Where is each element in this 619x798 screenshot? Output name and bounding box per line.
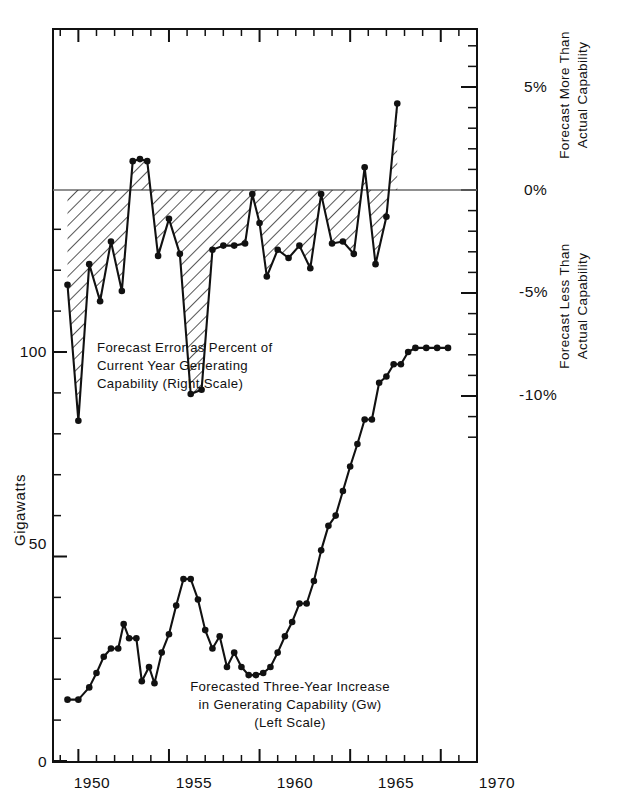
increase-annotation-line3: (Left Scale) bbox=[254, 715, 326, 730]
right-tick-label-5pct: 5% bbox=[524, 78, 547, 95]
left-axis-title: Gigawatts bbox=[11, 474, 28, 546]
left-tick-label-50: 50 bbox=[29, 535, 47, 552]
right-axis-title-less-line1: Forecast Less Than bbox=[557, 243, 572, 368]
error-annotation-line2: Current Year Generating bbox=[97, 358, 248, 373]
right-axis-title-more-line2: Actual Capability bbox=[575, 42, 590, 149]
increase-annotation-line2: in Generating Capability (Gw) bbox=[198, 697, 381, 712]
x-tick-label-1965: 1965 bbox=[378, 774, 414, 791]
x-tick-label-1950: 1950 bbox=[74, 774, 110, 791]
left-tick-label-100: 100 bbox=[20, 343, 47, 360]
right-tick-label-minus10pct: -10% bbox=[519, 386, 557, 403]
right-tick-label-0pct: 0% bbox=[524, 181, 547, 198]
increase-annotation-line1: Forecasted Three-Year Increase bbox=[190, 679, 390, 694]
chart-container: 100 50 0 Gigawatts 1950 1955 1960 1965 1… bbox=[0, 0, 619, 798]
forecast-error-and-capability-chart: 100 50 0 Gigawatts 1950 1955 1960 1965 1… bbox=[0, 0, 619, 798]
right-tick-label-minus5pct: -5% bbox=[519, 283, 548, 300]
error-annotation-line1: Forecast Error as Percent of bbox=[97, 340, 272, 355]
left-tick-label-0: 0 bbox=[38, 753, 47, 770]
x-tick-label-1970: 1970 bbox=[479, 774, 515, 791]
x-tick-label-1955: 1955 bbox=[176, 774, 212, 791]
x-tick-label-1960: 1960 bbox=[277, 774, 313, 791]
right-axis-title-less-line2: Actual Capability bbox=[575, 253, 590, 360]
error-annotation-line3: Capability (Right Scale) bbox=[97, 376, 243, 391]
right-axis-title-more-line1: Forecast More Than bbox=[557, 31, 572, 159]
